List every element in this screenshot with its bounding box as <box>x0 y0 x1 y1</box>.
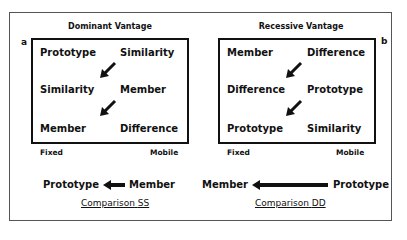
panel-b-title: Recessive Vantage <box>246 22 356 31</box>
panel-b-row2-right: Prototype <box>307 84 363 95</box>
panel-a-axis-fixed: Fixed <box>40 148 63 157</box>
panel-b-axis-mobile: Mobile <box>336 148 364 157</box>
diagonal-arrow-icon <box>98 98 118 118</box>
panel-a-row2-left: Similarity <box>40 84 94 95</box>
panel-a-title: Dominant Vantage <box>55 22 165 31</box>
panel-b-row1-right: Difference <box>307 47 365 58</box>
comparison-ss-label: Comparison SS <box>81 198 149 208</box>
comparison-dd-label: Comparison DD <box>255 198 326 208</box>
panel-b-row3-right: Similarity <box>307 123 361 134</box>
panel-b-row3-left: Prototype <box>227 123 283 134</box>
panel-a-row1-left: Prototype <box>40 47 96 58</box>
panel-a-row2-right: Member <box>120 84 166 95</box>
panel-a-row3-left: Member <box>40 123 86 134</box>
panel-b-row2-left: Difference <box>227 84 285 95</box>
diagonal-arrow-icon <box>98 60 118 80</box>
comparison-ss-left: Prototype <box>43 179 99 190</box>
left-arrow-icon <box>103 180 125 190</box>
panel-a-row3-right: Difference <box>120 123 178 134</box>
panel-a-axis-mobile: Mobile <box>150 148 178 157</box>
comparison-ss-right: Member <box>129 179 175 190</box>
panel-a-letter: a <box>21 37 27 47</box>
diagonal-arrow-icon <box>284 98 304 118</box>
diagonal-arrow-icon <box>284 60 304 80</box>
panel-a-row1-right: Similarity <box>120 47 174 58</box>
left-arrow-icon <box>252 180 328 190</box>
comparison-dd-left: Member <box>202 179 248 190</box>
panel-b-axis-fixed: Fixed <box>227 148 250 157</box>
comparison-dd-right: Prototype <box>333 179 389 190</box>
panel-b-row1-left: Member <box>227 47 273 58</box>
panel-b-letter: b <box>381 36 387 46</box>
